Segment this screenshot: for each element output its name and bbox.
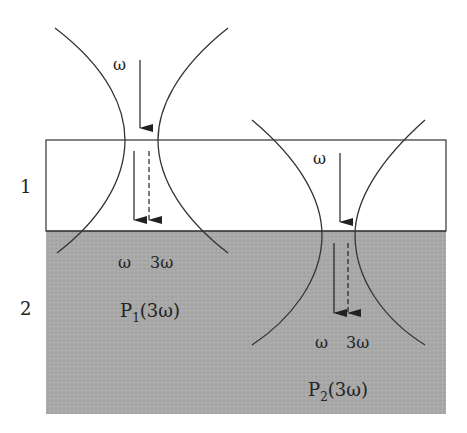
layer-2-label: 2	[20, 298, 31, 319]
beam-1-harmonic-label: 3ω	[150, 253, 173, 272]
layer-1-label: 1	[20, 176, 31, 197]
beam-2-fundamental-label: ω	[315, 333, 328, 352]
beam-2-incident-label: ω	[313, 149, 326, 168]
beam-1-incident-label: ω	[113, 55, 126, 74]
beam-1-fundamental-label: ω	[118, 253, 131, 272]
layer-2-substrate	[46, 231, 446, 414]
layer-1-film	[46, 140, 446, 231]
beam-2-harmonic-label: 3ω	[346, 333, 369, 352]
third-harmonic-diagram: 1 2 ω ω 3ω P1(3ω) ω ω 3ω P2(3ω)	[0, 0, 467, 433]
